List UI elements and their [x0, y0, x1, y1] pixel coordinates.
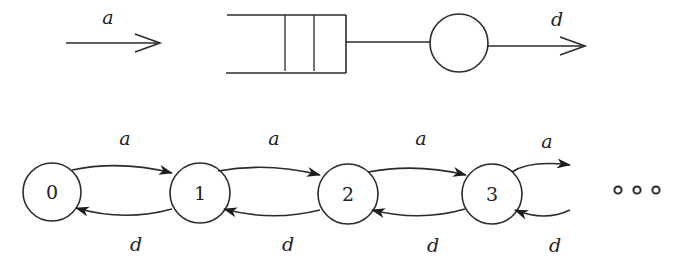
- arrival-label: a: [102, 6, 113, 28]
- svg-text:2: 2: [342, 183, 354, 205]
- queue-diagram: a d 0 1: [0, 0, 682, 270]
- backward-label: d: [427, 234, 439, 256]
- state-1: 1: [170, 163, 230, 223]
- backward-label: d: [282, 233, 294, 255]
- departure-arrow-icon: [488, 37, 585, 55]
- forward-label: a: [268, 127, 279, 149]
- backward-label: d: [130, 233, 142, 255]
- transition-4-3-icon: [515, 210, 570, 216]
- forward-label: a: [541, 130, 552, 152]
- svg-text:0: 0: [46, 181, 58, 203]
- state-3: 3: [462, 164, 522, 224]
- queue-model: a d: [66, 6, 585, 73]
- departure-label: d: [551, 8, 563, 30]
- transition-1-0-icon: [76, 208, 172, 215]
- transition-3-2-icon: [372, 209, 465, 216]
- forward-label: a: [415, 127, 426, 149]
- markov-chain: 0 1 2 3 a a a a d d d d: [23, 127, 660, 256]
- transition-2-3-icon: [368, 168, 466, 175]
- backward-label: d: [549, 234, 561, 256]
- state-2: 2: [318, 164, 378, 224]
- ellipsis-icon: [614, 186, 659, 193]
- svg-text:3: 3: [486, 183, 498, 205]
- transition-1-2-icon: [218, 167, 320, 175]
- server-node: [430, 14, 488, 72]
- svg-text:1: 1: [194, 182, 206, 204]
- transition-0-1-icon: [72, 166, 172, 173]
- transition-2-1-icon: [224, 209, 320, 216]
- forward-label: a: [119, 127, 130, 149]
- transition-3-4-icon: [512, 164, 570, 172]
- state-0: 0: [23, 163, 81, 221]
- queue-buffer: [226, 15, 346, 73]
- arrival-arrow-icon: [66, 34, 160, 52]
